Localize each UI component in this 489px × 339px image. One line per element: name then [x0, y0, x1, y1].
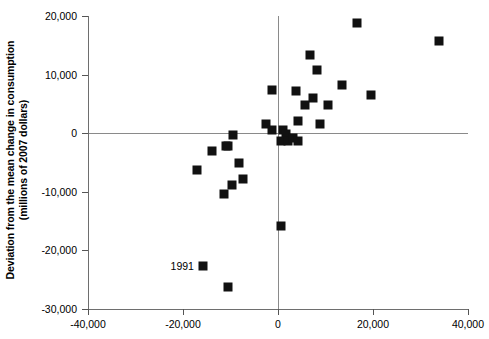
x-axis-tick-label: 40,000: [452, 318, 484, 330]
data-point: [219, 189, 228, 198]
data-point: [308, 94, 317, 103]
y-axis-tick-label: -30,000: [41, 303, 77, 315]
x-axis-tick: [88, 309, 89, 315]
x-axis-tick: [278, 309, 279, 315]
x-axis-tick-label: -40,000: [70, 318, 106, 330]
data-point: [193, 165, 202, 174]
data-point: [435, 37, 444, 46]
plot-area: -40,000-20,000020,00040,00020,00010,0000…: [88, 16, 468, 309]
data-point: [323, 101, 332, 110]
scatter-chart-figure: Deviation from the mean change in consum…: [0, 0, 489, 339]
y-axis-tick: [82, 192, 88, 193]
y-axis-tick-label: 0: [71, 127, 77, 139]
data-point: [239, 175, 248, 184]
data-point: [294, 136, 303, 145]
y-axis-tick: [82, 309, 88, 310]
data-point: [228, 130, 237, 139]
y-axis-tick: [82, 16, 88, 17]
data-point: [208, 147, 217, 156]
y-axis-title: Deviation from the mean change in consum…: [0, 0, 34, 320]
y-axis-tick: [82, 75, 88, 76]
x-axis-tick-label: 0: [275, 318, 281, 330]
y-axis-line: [88, 16, 89, 309]
x-axis-tick: [373, 309, 374, 315]
data-point: [235, 159, 244, 168]
data-point: [353, 19, 362, 28]
y-axis-tick-label: 10,000: [45, 69, 77, 81]
data-point: [223, 282, 232, 291]
data-point: [267, 125, 276, 134]
data-point: [198, 262, 207, 271]
y-axis-tick-label: -20,000: [41, 244, 77, 256]
data-point: [305, 50, 314, 59]
y-axis-zero-line: [278, 16, 279, 309]
data-point: [312, 65, 321, 74]
x-axis-tick: [183, 309, 184, 315]
point-annotation-label: 1991: [171, 260, 194, 272]
data-point: [338, 80, 347, 89]
data-point: [300, 101, 309, 110]
data-point: [293, 117, 302, 126]
y-axis-title-line-2: (millions of 2007 dollars): [17, 41, 30, 280]
y-axis-tick-label: 20,000: [45, 10, 77, 22]
data-point: [315, 120, 324, 129]
x-axis-tick-label: 20,000: [357, 318, 389, 330]
data-point: [291, 87, 300, 96]
data-point: [277, 221, 286, 230]
y-axis-tick-label: -10,000: [41, 186, 77, 198]
data-point: [227, 180, 236, 189]
y-axis-tick: [82, 133, 88, 134]
data-point: [367, 90, 376, 99]
x-axis-tick-label: -20,000: [165, 318, 201, 330]
data-point: [267, 85, 276, 94]
y-axis-title-line-1: Deviation from the mean change in consum…: [4, 41, 16, 280]
y-axis-tick: [82, 250, 88, 251]
data-point: [224, 141, 233, 150]
x-axis-tick: [468, 309, 469, 315]
